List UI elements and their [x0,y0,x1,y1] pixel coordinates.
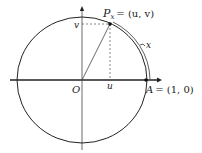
arc-brace-icon [140,44,145,46]
point-a [144,78,148,82]
arc-length-marker [113,22,150,79]
x-axis-arrow-icon [157,78,162,83]
point-p [108,22,112,26]
label-u: u [107,81,113,91]
unit-circle-diagram: Px= (u, v) v O u x A= (1, 0) [0,0,202,153]
y-axis-arrow-icon [80,6,84,11]
label-p: Px= (u, v) [102,7,154,21]
label-a: A= (1, 0) [145,84,194,95]
label-v: v [74,20,79,30]
label-origin: O [72,84,80,95]
radius-op [82,24,110,80]
label-arc-x: x [146,40,151,50]
